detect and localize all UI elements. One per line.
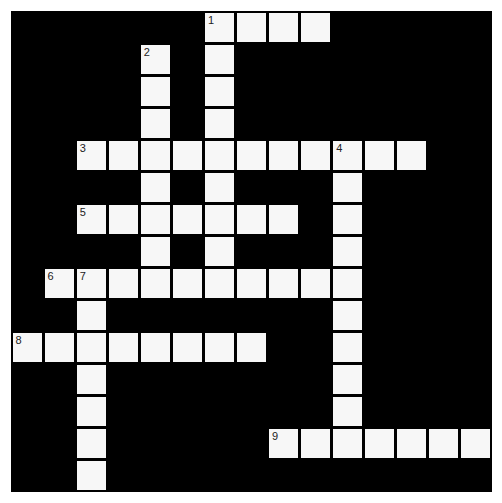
letter-input[interactable] [237,333,266,362]
crossword-cell[interactable] [205,109,234,138]
crossword-cell[interactable] [237,141,266,170]
crossword-cell[interactable]: 7 [77,269,106,298]
letter-input[interactable] [237,205,266,234]
crossword-cell[interactable] [77,429,106,458]
letter-input[interactable] [141,141,170,170]
letter-input[interactable] [333,429,362,458]
letter-input[interactable] [461,429,490,458]
letter-input[interactable] [205,333,234,362]
letter-input[interactable] [77,397,106,426]
letter-input[interactable] [205,13,234,42]
crossword-cell[interactable] [461,429,490,458]
crossword-cell[interactable] [77,365,106,394]
letter-input[interactable] [13,333,42,362]
letter-input[interactable] [109,333,138,362]
letter-input[interactable] [77,205,106,234]
crossword-cell[interactable]: 6 [45,269,74,298]
crossword-cell[interactable]: 2 [141,45,170,74]
crossword-cell[interactable]: 5 [77,205,106,234]
crossword-cell[interactable] [205,237,234,266]
letter-input[interactable] [173,141,202,170]
crossword-cell[interactable] [205,141,234,170]
crossword-cell[interactable] [205,77,234,106]
crossword-cell[interactable] [333,269,362,298]
crossword-cell[interactable] [173,269,202,298]
crossword-cell[interactable] [365,429,394,458]
letter-input[interactable] [205,173,234,202]
crossword-cell[interactable] [237,13,266,42]
letter-input[interactable] [301,269,330,298]
letter-input[interactable] [45,333,74,362]
crossword-cell[interactable]: 4 [333,141,362,170]
crossword-cell[interactable] [45,333,74,362]
crossword-cell[interactable] [301,13,330,42]
letter-input[interactable] [205,77,234,106]
crossword-cell[interactable] [365,141,394,170]
crossword-cell[interactable] [333,397,362,426]
crossword-cell[interactable] [269,205,298,234]
crossword-cell[interactable] [333,333,362,362]
crossword-cell[interactable] [141,237,170,266]
letter-input[interactable] [237,13,266,42]
letter-input[interactable] [173,205,202,234]
crossword-cell[interactable]: 3 [77,141,106,170]
crossword-cell[interactable] [205,269,234,298]
letter-input[interactable] [301,429,330,458]
letter-input[interactable] [269,429,298,458]
crossword-cell[interactable] [205,45,234,74]
letter-input[interactable] [333,205,362,234]
letter-input[interactable] [237,269,266,298]
letter-input[interactable] [109,141,138,170]
letter-input[interactable] [173,269,202,298]
crossword-cell[interactable] [237,333,266,362]
letter-input[interactable] [301,13,330,42]
letter-input[interactable] [205,109,234,138]
letter-input[interactable] [429,429,458,458]
letter-input[interactable] [141,109,170,138]
letter-input[interactable] [205,269,234,298]
crossword-cell[interactable] [269,269,298,298]
crossword-cell[interactable] [301,141,330,170]
crossword-cell[interactable] [141,109,170,138]
crossword-cell[interactable] [141,173,170,202]
letter-input[interactable] [365,141,394,170]
letter-input[interactable] [173,333,202,362]
letter-input[interactable] [109,269,138,298]
letter-input[interactable] [333,269,362,298]
crossword-cell[interactable] [301,429,330,458]
crossword-cell[interactable] [109,269,138,298]
letter-input[interactable] [269,141,298,170]
letter-input[interactable] [205,141,234,170]
crossword-cell[interactable] [301,269,330,298]
letter-input[interactable] [237,141,266,170]
crossword-cell[interactable] [173,333,202,362]
letter-input[interactable] [141,333,170,362]
crossword-cell[interactable] [141,333,170,362]
letter-input[interactable] [141,45,170,74]
crossword-cell[interactable] [333,429,362,458]
crossword-cell[interactable] [205,333,234,362]
letter-input[interactable] [333,237,362,266]
letter-input[interactable] [45,269,74,298]
crossword-cell[interactable] [77,461,106,490]
crossword-cell[interactable] [77,397,106,426]
letter-input[interactable] [205,205,234,234]
crossword-cell[interactable] [77,333,106,362]
letter-input[interactable] [397,429,426,458]
letter-input[interactable] [77,461,106,490]
letter-input[interactable] [109,205,138,234]
letter-input[interactable] [77,429,106,458]
crossword-cell[interactable] [205,173,234,202]
letter-input[interactable] [77,269,106,298]
crossword-cell[interactable] [333,237,362,266]
letter-input[interactable] [269,13,298,42]
crossword-cell[interactable] [141,77,170,106]
crossword-cell[interactable] [109,141,138,170]
crossword-cell[interactable]: 8 [13,333,42,362]
crossword-cell[interactable] [237,269,266,298]
crossword-cell[interactable] [333,205,362,234]
crossword-cell[interactable] [109,205,138,234]
crossword-cell[interactable] [269,13,298,42]
letter-input[interactable] [141,237,170,266]
letter-input[interactable] [333,301,362,330]
